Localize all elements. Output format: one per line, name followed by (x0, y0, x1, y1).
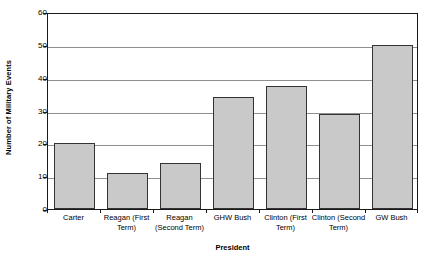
gridline (48, 80, 417, 81)
x-axis-tick-label-line: GW Bush (359, 213, 424, 223)
bar-chart-figure: Number of Military Events 0102030405060 … (0, 0, 429, 261)
x-axis-tick-label-line: (Second Term) (147, 223, 212, 233)
x-axis-tick-label: GW Bush (359, 213, 424, 223)
bar (213, 97, 254, 209)
bar (107, 173, 148, 209)
bar (160, 163, 201, 209)
y-axis-title-text: Number of Military Events (5, 60, 14, 155)
bar (372, 45, 413, 209)
bar (266, 86, 307, 209)
x-axis-tick-label-line: Term) (306, 223, 371, 233)
gridline (48, 47, 417, 48)
x-axis-title: President (47, 243, 418, 252)
plot-area (47, 13, 418, 210)
x-axis-tick-labels: CarterReagan (FirstTerm)Reagan(Second Te… (47, 213, 418, 241)
bar (319, 114, 360, 209)
bar (54, 143, 95, 209)
